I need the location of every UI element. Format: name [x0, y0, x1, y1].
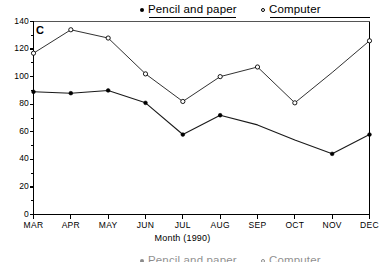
legend-label-computer-bottom: Computer: [269, 254, 321, 262]
x-tick-label: OCT: [275, 220, 315, 230]
x-axis-title-text: Month (1990): [155, 233, 211, 243]
x-axis-title: Month (1990): [0, 233, 377, 243]
legend-item-computer-bottom: Computer: [261, 252, 321, 262]
x-tick-label: DEC: [350, 220, 383, 230]
x-tick-label: NOV: [312, 220, 352, 230]
y-tick-label: 60: [3, 127, 29, 136]
y-tick-label: 140: [3, 17, 29, 26]
series-pencil-and-paper: [32, 89, 372, 156]
y-tick-label: 100: [3, 72, 29, 81]
x-tick-label: MAR: [14, 220, 54, 230]
x-tick-label: APR: [51, 220, 91, 230]
x-tick-label: MAY: [88, 220, 128, 230]
y-tick-label: 20: [3, 182, 29, 191]
y-tick-label: 0: [3, 210, 29, 219]
panel-label: C: [36, 24, 44, 36]
x-tick-label: AUG: [200, 220, 240, 230]
y-tick-label: 40: [3, 154, 29, 163]
legend-label-pencil-and-paper-bottom: Pencil and paper: [148, 254, 237, 262]
axis-frame: [34, 22, 370, 215]
legend-item-pencil-and-paper-bottom: Pencil and paper: [140, 252, 237, 262]
data-series-layer: [31, 28, 371, 156]
x-tick-label: JUN: [126, 220, 166, 230]
y-tick-label: 120: [3, 44, 29, 53]
x-tick-label: SEP: [238, 220, 278, 230]
series-computer: [31, 28, 371, 105]
y-tick-label: 80: [3, 99, 29, 108]
x-tick-label: JUL: [163, 220, 203, 230]
chart-legend-next-panel: Pencil and paper Computer: [0, 252, 377, 262]
